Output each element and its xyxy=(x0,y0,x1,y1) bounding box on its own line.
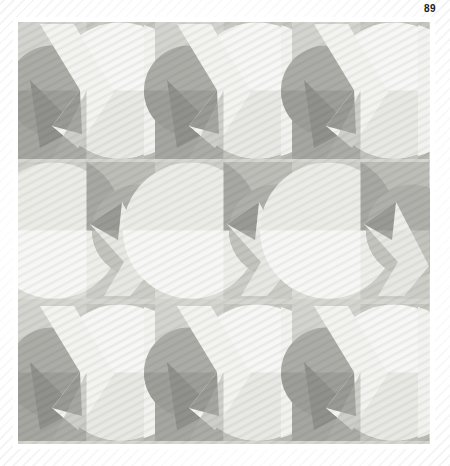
artwork-svg xyxy=(18,22,430,444)
page-number: 89 xyxy=(424,2,436,16)
artwork-plate xyxy=(18,22,430,444)
print-wash xyxy=(18,22,430,444)
geometric-artwork xyxy=(18,22,430,444)
